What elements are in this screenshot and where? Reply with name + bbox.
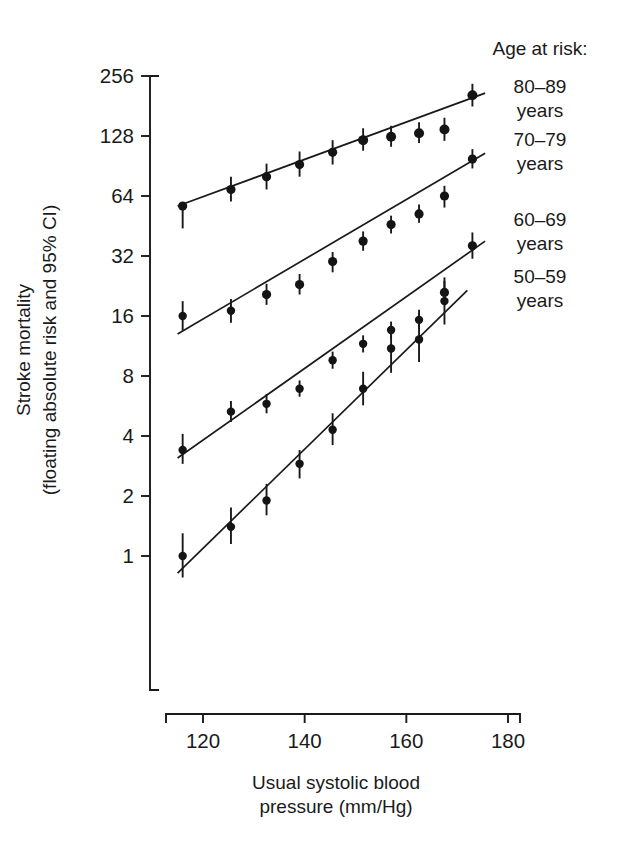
data-point bbox=[178, 201, 187, 210]
data-point bbox=[358, 135, 368, 145]
y-tick-label: 16 bbox=[111, 304, 134, 327]
plot-area bbox=[178, 84, 486, 578]
y-tick-label: 256 bbox=[100, 64, 134, 87]
data-point bbox=[414, 209, 423, 218]
legend-title: Age at risk: bbox=[492, 38, 587, 59]
regression-line bbox=[178, 290, 468, 573]
legend-entry-unit: years bbox=[517, 100, 563, 121]
series-70-79-years bbox=[178, 149, 486, 334]
data-point bbox=[227, 307, 235, 315]
data-point bbox=[295, 460, 303, 468]
legend-entry-range: 70–79 bbox=[514, 129, 567, 150]
y-axis-title: Stroke mortality (floating absolute risk… bbox=[13, 205, 60, 495]
data-point bbox=[386, 132, 396, 142]
regression-line bbox=[178, 153, 486, 334]
data-point bbox=[414, 128, 424, 138]
regression-line bbox=[178, 241, 486, 458]
data-point bbox=[178, 552, 186, 560]
y-axis: 1248163264128256 bbox=[100, 64, 159, 690]
data-point bbox=[468, 241, 477, 250]
data-point bbox=[262, 290, 271, 299]
data-point bbox=[387, 344, 395, 352]
data-point bbox=[262, 496, 270, 504]
data-point bbox=[468, 155, 477, 164]
legend-entry-3: 60–69years bbox=[514, 209, 567, 254]
data-point bbox=[295, 160, 304, 169]
x-axis: 120140160180 bbox=[166, 714, 525, 752]
data-point bbox=[467, 90, 477, 100]
data-point bbox=[295, 385, 303, 393]
legend: Age at risk:80–89years70–79years60–69yea… bbox=[492, 38, 587, 311]
legend-entry-unit: years bbox=[517, 233, 563, 254]
y-tick-label: 4 bbox=[123, 424, 134, 447]
data-point bbox=[328, 148, 337, 157]
data-point bbox=[328, 257, 337, 266]
legend-entry-range: 60–69 bbox=[514, 209, 567, 230]
y-tick-label: 128 bbox=[100, 124, 134, 147]
data-point bbox=[440, 191, 449, 200]
x-tick-label: 140 bbox=[288, 729, 322, 752]
data-point bbox=[226, 185, 235, 194]
x-tick-label: 180 bbox=[491, 729, 525, 752]
data-point bbox=[439, 124, 449, 134]
data-point bbox=[415, 335, 423, 343]
x-axis-title-line2: pressure (mm/Hg) bbox=[259, 796, 412, 817]
data-point bbox=[359, 340, 367, 348]
legend-entry-unit: years bbox=[517, 290, 563, 311]
data-point bbox=[227, 523, 235, 531]
stroke-mortality-chart: Stroke mortality (floating absolute risk… bbox=[0, 0, 625, 841]
series-80-89-years bbox=[178, 84, 486, 229]
data-point bbox=[328, 356, 336, 364]
y-tick-label: 1 bbox=[123, 544, 134, 567]
data-point bbox=[262, 172, 271, 181]
x-tick-label: 120 bbox=[186, 729, 220, 752]
data-point bbox=[386, 220, 395, 229]
legend-entry-4: 50–59years bbox=[514, 266, 567, 311]
data-point bbox=[295, 280, 304, 289]
data-point bbox=[227, 407, 235, 415]
y-tick-label: 64 bbox=[111, 184, 134, 207]
data-point bbox=[262, 400, 270, 408]
y-axis-title-line1: Stroke mortality bbox=[13, 284, 34, 416]
y-axis-title-line2: (floating absolute risk and 95% CI) bbox=[39, 205, 60, 495]
legend-entry-range: 50–59 bbox=[514, 266, 567, 287]
y-tick-label: 2 bbox=[123, 484, 134, 507]
data-point bbox=[359, 237, 368, 246]
data-point bbox=[359, 385, 367, 393]
y-tick-label: 8 bbox=[123, 364, 134, 387]
x-axis-title-line1: Usual systolic blood bbox=[252, 772, 420, 793]
data-point bbox=[178, 446, 186, 454]
legend-entry-range: 80–89 bbox=[514, 76, 567, 97]
y-tick-label: 32 bbox=[111, 244, 134, 267]
legend-entry-unit: years bbox=[517, 153, 563, 174]
data-point bbox=[440, 297, 448, 305]
x-axis-title: Usual systolic blood pressure (mm/Hg) bbox=[252, 772, 420, 817]
legend-entry-1: 80–89years bbox=[514, 76, 567, 121]
data-point bbox=[328, 426, 336, 434]
x-tick-label: 160 bbox=[389, 729, 423, 752]
legend-entry-2: 70–79years bbox=[514, 129, 567, 174]
data-point bbox=[178, 312, 186, 320]
chart-canvas: Stroke mortality (floating absolute risk… bbox=[0, 0, 625, 841]
